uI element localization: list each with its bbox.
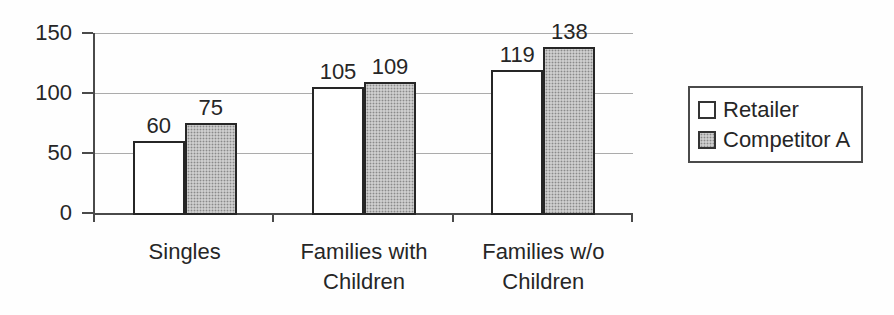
- bar-value-label: 138: [529, 19, 609, 45]
- y-axis-tick: [82, 152, 93, 154]
- x-axis-tick: [452, 213, 454, 222]
- legend: Retailer Competitor A: [688, 86, 863, 163]
- x-axis-tick: [93, 213, 95, 222]
- y-axis-tick: [82, 92, 93, 94]
- bar-value-label: 75: [171, 95, 251, 121]
- legend-label-retailer: Retailer: [723, 99, 799, 121]
- y-axis-label: 100: [0, 79, 72, 107]
- y-axis-tick: [82, 32, 93, 34]
- bar-competitor-a: [185, 123, 237, 215]
- y-axis-tick: [82, 212, 93, 214]
- bar-retailer: [133, 141, 185, 215]
- y-axis-label: 0: [0, 199, 72, 227]
- bar-chart: Retailer Competitor A 0501001506075Singl…: [0, 0, 894, 315]
- bar-competitor-a: [364, 82, 416, 215]
- category-label: Families with Children: [274, 237, 453, 297]
- legend-item-retailer: Retailer: [698, 99, 861, 121]
- bar-retailer: [491, 70, 543, 215]
- category-label: Singles: [95, 237, 274, 267]
- legend-item-competitor-a: Competitor A: [698, 129, 861, 151]
- x-axis-tick: [631, 213, 633, 222]
- legend-swatch-competitor-a-icon: [698, 131, 716, 149]
- x-axis-tick: [272, 213, 274, 222]
- bar-competitor-a: [543, 47, 595, 215]
- y-axis-label: 150: [0, 19, 72, 47]
- y-axis-line: [93, 33, 95, 213]
- bar-retailer: [312, 87, 364, 215]
- bar-value-label: 109: [350, 54, 430, 80]
- legend-label-competitor-a: Competitor A: [723, 129, 850, 151]
- legend-swatch-retailer-icon: [698, 101, 716, 119]
- y-axis-label: 50: [0, 139, 72, 167]
- category-label: Families w/o Children: [454, 237, 633, 297]
